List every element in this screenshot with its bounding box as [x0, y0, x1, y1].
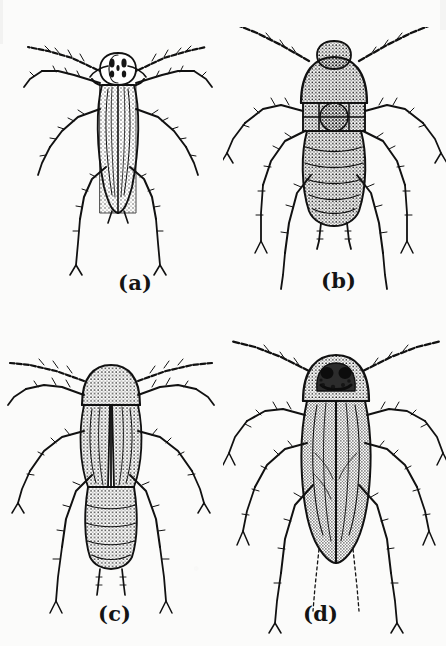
- figure-panel-b: (b): [223, 0, 446, 323]
- figure-label-c: (c): [98, 603, 131, 624]
- figure-panel-c: (c): [0, 323, 223, 646]
- figure-panel-a: (a): [0, 0, 223, 323]
- figure-label-b: (b): [321, 270, 356, 291]
- scan-edge-left: [0, 0, 3, 44]
- specimen-illustration-d: [223, 323, 446, 646]
- figure-label-d: (d): [303, 603, 338, 624]
- figure-label-a: (a): [118, 272, 152, 293]
- specimen-illustration-a: [0, 0, 223, 323]
- scan-edge-right: [440, 0, 446, 30]
- figure-panel-d: (d): [223, 323, 446, 646]
- specimen-illustration-c: [0, 323, 223, 646]
- figure-plate: (a): [0, 0, 446, 646]
